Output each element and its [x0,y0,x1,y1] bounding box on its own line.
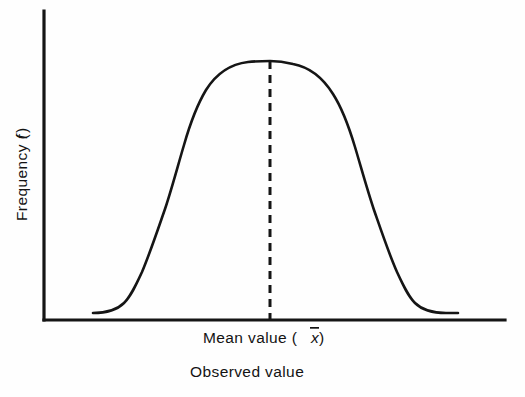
y-axis-title: Frequency ( [13,133,30,221]
figure-root: Mean value ( x ) Observed value Frequenc… [0,0,525,397]
distribution-chart: Mean value ( x ) Observed value Frequenc… [0,0,525,397]
x-axis-tick-label-group: Mean value ( x ) [203,327,325,346]
x-axis-title: Observed value [190,363,304,380]
y-axis-title-close-paren: ) [13,127,30,133]
mean-value-label-close-paren: ) [319,329,325,346]
x-bar-overbar [310,327,319,329]
y-axis-title-group: Frequency ( f ) [13,127,30,221]
frequency-distribution-curve [93,61,458,313]
mean-value-label-text: Mean value ( [203,329,298,346]
